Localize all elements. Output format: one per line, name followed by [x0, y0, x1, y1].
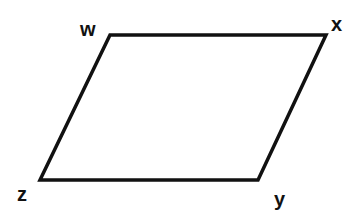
parallelogram-wxyz [40, 35, 326, 180]
vertex-label-w: w [79, 18, 96, 40]
vertex-label-y: y [274, 188, 286, 210]
parallelogram-diagram: w x y z [0, 0, 361, 214]
vertex-label-x: x [331, 13, 342, 35]
vertex-label-z: z [17, 183, 27, 205]
